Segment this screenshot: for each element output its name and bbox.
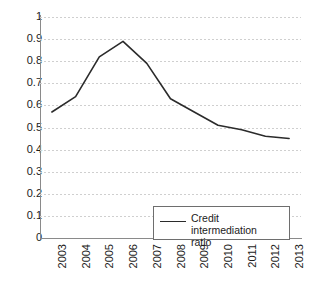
y-axis-tick-label: 0.9 <box>6 33 42 44</box>
x-axis-tick-label: 2003 <box>57 244 68 284</box>
x-axis-tick-label: 2009 <box>199 244 210 284</box>
x-axis-tick-label: 2006 <box>128 244 139 284</box>
x-axis-tick-label: 2008 <box>176 244 187 284</box>
legend-line-swatch-icon <box>160 216 186 227</box>
x-axis-tick-label: 2004 <box>81 244 92 284</box>
y-axis-tick-label: 0 <box>6 232 42 243</box>
legend-label: Credit intermediation ratio <box>191 212 285 248</box>
y-axis-tick-label: 0.8 <box>6 55 42 66</box>
y-axis-tick-label: 0.2 <box>6 188 42 199</box>
plot-area <box>40 17 301 238</box>
y-axis-tick-label: 1 <box>6 11 42 22</box>
y-axis-tick-label: 0.5 <box>6 122 42 133</box>
y-axis-tick-label: 0.4 <box>6 144 42 155</box>
legend-label-line2: ratio <box>191 236 285 248</box>
x-axis-tick-label: 2011 <box>247 244 258 284</box>
y-axis-tick-label: 0.1 <box>6 210 42 221</box>
chart-legend: Credit intermediation ratio <box>153 206 290 240</box>
x-axis-tick-label: 2005 <box>104 244 115 284</box>
x-axis-tick-label: 2013 <box>294 244 305 284</box>
x-axis-tick-label: 2007 <box>152 244 163 284</box>
chart-container: 10.90.80.70.60.50.40.30.20.10 2003200420… <box>0 0 310 288</box>
x-axis-tick-label: 2012 <box>270 244 281 284</box>
y-axis-tick-label: 0.7 <box>6 77 42 88</box>
y-axis-tick-label: 0.3 <box>6 166 42 177</box>
y-axis-tick-label: 0.6 <box>6 99 42 110</box>
series-line-credit-intermediation-ratio <box>40 17 301 238</box>
x-axis-tick-label: 2010 <box>223 244 234 284</box>
legend-label-line1: Credit intermediation <box>191 212 285 236</box>
